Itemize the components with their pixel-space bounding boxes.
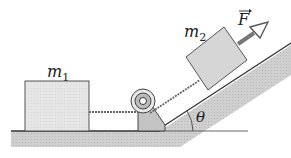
rope-incline bbox=[150, 80, 200, 113]
pulley bbox=[131, 89, 155, 113]
block-m1 bbox=[25, 81, 89, 131]
force-label: F bbox=[237, 10, 250, 29]
diagram-canvas: θ m1 m2 F bbox=[0, 0, 291, 158]
angle-label: θ bbox=[196, 108, 205, 126]
mass1-label: m1 bbox=[47, 62, 69, 84]
mass2-label: m2 bbox=[184, 22, 206, 44]
